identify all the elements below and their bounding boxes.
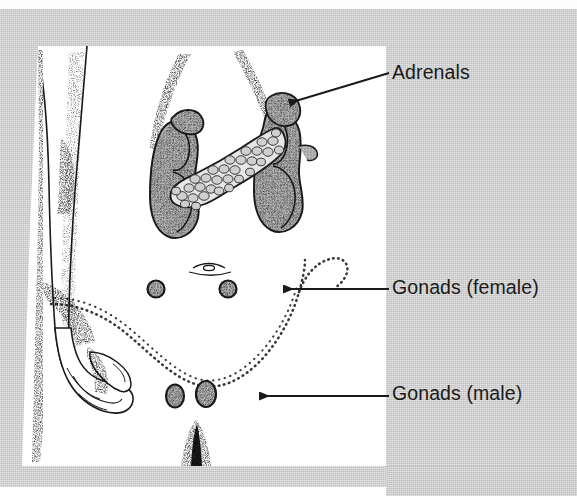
renal-vessel-nub — [299, 145, 317, 160]
figure-page: Adrenals Gonads (female) Gonads (male) — [0, 0, 577, 504]
label-gonads-male: Gonads (male) — [392, 382, 522, 405]
pelvic-brim-outline — [43, 258, 347, 386]
iliac-crest-dots — [299, 258, 347, 292]
pelvic-brim-dots — [51, 260, 305, 386]
label-adrenals: Adrenals — [392, 61, 470, 84]
illustration-panel — [43, 46, 386, 466]
testes — [166, 381, 216, 408]
anatomy-drawing — [43, 46, 386, 466]
ovaries — [148, 281, 237, 298]
top-margin-strip — [0, 0, 577, 9]
navel — [189, 264, 231, 276]
background-field-notch — [386, 466, 577, 496]
label-gonads-female: Gonads (female) — [392, 276, 539, 299]
midline-marker — [181, 420, 211, 466]
arm-and-hand-drawing — [43, 46, 133, 413]
